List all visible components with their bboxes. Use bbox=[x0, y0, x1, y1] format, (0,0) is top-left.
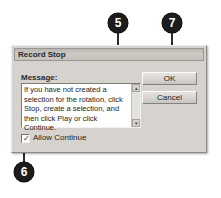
dialog-title: Record Stop bbox=[18, 49, 66, 61]
figure-canvas: 5 7 6 Record Stop Message: If you have n… bbox=[0, 0, 221, 198]
message-text: If you have not created a selection for … bbox=[24, 85, 127, 133]
scroll-up-arrow-icon[interactable]: ▴ bbox=[132, 84, 140, 92]
callout-marker-5: 5 bbox=[108, 13, 128, 33]
message-input[interactable]: If you have not created a selection for … bbox=[21, 83, 141, 128]
checkmark-icon: ✓ bbox=[23, 134, 30, 143]
message-label: Message: bbox=[21, 73, 57, 82]
scroll-down-arrow-icon[interactable]: ▾ bbox=[132, 119, 140, 127]
cancel-button[interactable]: Cancel bbox=[142, 91, 197, 104]
callout-marker-7: 7 bbox=[162, 13, 182, 33]
record-stop-dialog: Record Stop Message: If you have not cre… bbox=[11, 45, 207, 153]
dialog-titlebar[interactable]: Record Stop bbox=[14, 48, 204, 61]
ok-button[interactable]: OK bbox=[142, 72, 197, 85]
callout-marker-6: 6 bbox=[14, 162, 34, 182]
message-scrollbar[interactable]: ▴ ▾ bbox=[131, 84, 140, 127]
allow-continue-label: Allow Continue bbox=[33, 133, 86, 142]
allow-continue-checkbox[interactable]: ✓ bbox=[21, 134, 30, 143]
